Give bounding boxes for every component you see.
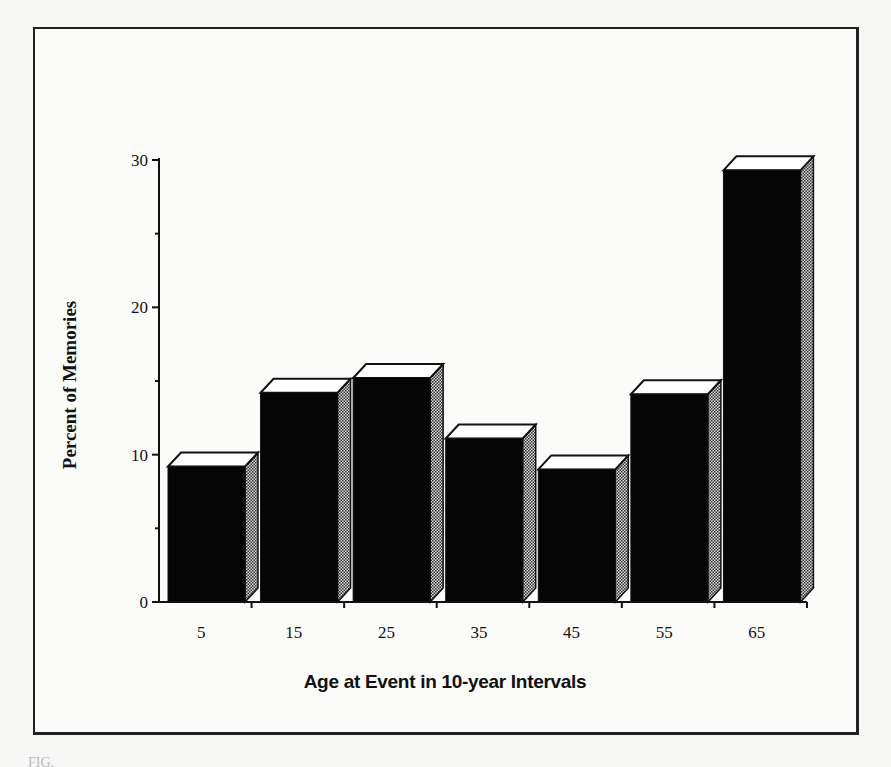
y-axis-title: Percent of Memories (59, 301, 81, 469)
bar-55 (631, 380, 721, 602)
y-tick-label: 20 (131, 298, 148, 317)
bar-65 (723, 156, 813, 602)
bar-25 (353, 364, 443, 602)
x-tick-label: 25 (378, 623, 395, 642)
x-tick-label: 65 (748, 623, 765, 642)
y-tick-label: 30 (131, 151, 148, 170)
x-tick-label: 55 (656, 623, 673, 642)
bar-45 (538, 455, 628, 602)
x-tick-label: 45 (563, 623, 580, 642)
figure-caption: FIG. (28, 755, 54, 767)
x-tick-label: 5 (197, 623, 206, 642)
y-tick-label: 0 (140, 593, 149, 612)
bar-5 (168, 452, 258, 602)
x-tick-label: 35 (471, 623, 488, 642)
x-tick-label: 15 (285, 623, 302, 642)
x-axis-title: Age at Event in 10-year Intervals (304, 671, 587, 693)
y-tick-label: 10 (131, 446, 148, 465)
bar-chart: 01020305152535455565 (0, 0, 891, 767)
bar-15 (261, 379, 351, 602)
bar-35 (446, 424, 536, 602)
